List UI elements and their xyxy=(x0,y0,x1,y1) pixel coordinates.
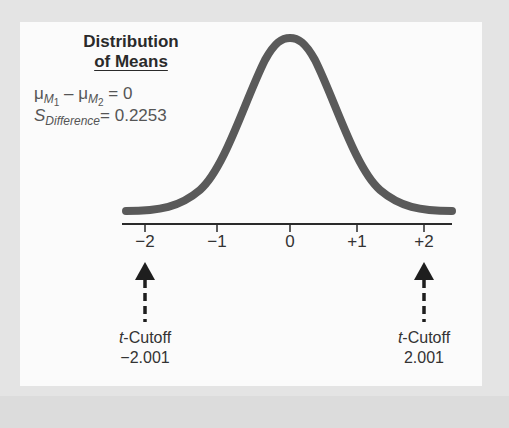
tick-label-plus-2: +2 xyxy=(414,232,433,252)
tick-label-plus-1: +1 xyxy=(347,232,366,252)
x-axis-ticks xyxy=(145,224,424,232)
tick-label-minus-1: −1 xyxy=(207,232,226,252)
right-cutoff-arrow-icon xyxy=(414,262,434,322)
title-line-2: of Means xyxy=(66,52,196,72)
right-cutoff-label: t-Cutoff 2.001 xyxy=(398,328,450,368)
right-cutoff-value: 2.001 xyxy=(398,348,450,368)
left-cutoff-label: t-Cutoff −2.001 xyxy=(119,328,171,368)
chart-title: Distribution of Means xyxy=(66,32,196,72)
title-line-1: Distribution xyxy=(66,32,196,52)
tick-label-0: 0 xyxy=(285,232,294,252)
left-cutoff-value: −2.001 xyxy=(119,348,171,368)
tick-label-minus-2: −2 xyxy=(135,232,154,252)
s-difference-stat: SDifference= 0.2253 xyxy=(34,106,167,131)
left-cutoff-arrow-icon xyxy=(135,262,155,322)
